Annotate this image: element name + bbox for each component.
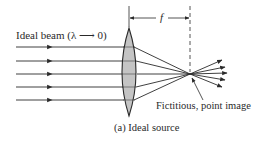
diverging-rays: [190, 60, 227, 87]
focal-length-label: f: [160, 11, 163, 23]
convex-lens: [122, 28, 136, 116]
converging-rays: [134, 47, 190, 100]
incoming-rays: [16, 47, 124, 100]
image-label-leader: [192, 78, 203, 100]
point-image-label: Fictitious, point image: [156, 100, 251, 112]
beam-label: Ideal beam (λ ⟶ 0): [16, 29, 107, 41]
figure-caption: (a) Ideal source: [114, 122, 179, 134]
